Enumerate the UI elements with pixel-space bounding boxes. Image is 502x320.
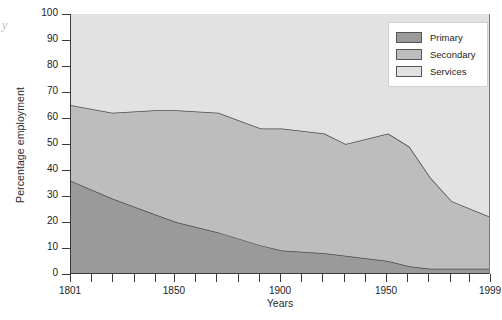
y-tick-label: 80 [20,59,58,70]
x-tick [407,274,408,282]
x-tick [301,274,302,282]
employment-area-chart-figure: y Percentage employment Years 0102030405… [0,0,502,320]
legend-swatch-icon [396,32,422,43]
legend-item-primary[interactable]: Primary [396,29,481,46]
y-tick-label: 60 [20,111,58,122]
x-tick-label: 1850 [144,285,204,296]
y-tick-label: 0 [20,267,58,278]
y-tick [62,274,70,275]
y-tick-label: 30 [20,189,58,200]
legend-item-secondary[interactable]: Secondary [396,46,481,63]
legend-label: Services [430,66,466,77]
legend-swatch-icon [396,66,422,77]
x-tick [155,274,156,282]
legend-item-services[interactable]: Services [396,63,481,80]
x-tick [469,274,470,282]
legend-label: Primary [430,32,463,43]
y-tick-label: 40 [20,163,58,174]
y-tick [62,222,70,223]
x-tick [450,274,451,282]
x-tick [195,274,196,282]
x-tick [490,274,491,282]
x-tick [259,274,260,282]
x-tick-label: 1950 [356,285,416,296]
x-tick [280,274,281,282]
legend-swatch-icon [396,49,422,60]
x-tick [134,274,135,282]
y-tick-label: 90 [20,33,58,44]
x-tick-label: 1801 [40,285,100,296]
legend-label: Secondary [430,49,475,60]
y-tick [62,66,70,67]
x-tick [216,274,217,282]
y-tick [62,248,70,249]
x-tick [70,274,71,282]
y-tick [62,144,70,145]
y-tick-label: 100 [20,7,58,18]
x-tick [365,274,366,282]
x-tick-label: 1900 [250,285,310,296]
y-tick-label: 70 [20,85,58,96]
x-tick [91,274,92,282]
y-tick [62,196,70,197]
x-tick [322,274,323,282]
y-tick [62,92,70,93]
chart-legend: PrimarySecondaryServices [388,22,488,87]
x-tick [174,274,175,282]
y-tick-label: 20 [20,215,58,226]
x-tick-label: 1999 [460,285,502,296]
y-tick [62,14,70,15]
y-tick [62,118,70,119]
x-axis-label: Years [70,297,490,309]
y-tick [62,170,70,171]
x-tick [386,274,387,282]
y-tick [62,40,70,41]
y-tick-label: 10 [20,241,58,252]
x-tick [428,274,429,282]
x-tick [238,274,239,282]
x-tick [112,274,113,282]
y-tick-label: 50 [20,137,58,148]
page-corner-mark: y [2,18,7,33]
x-tick [344,274,345,282]
